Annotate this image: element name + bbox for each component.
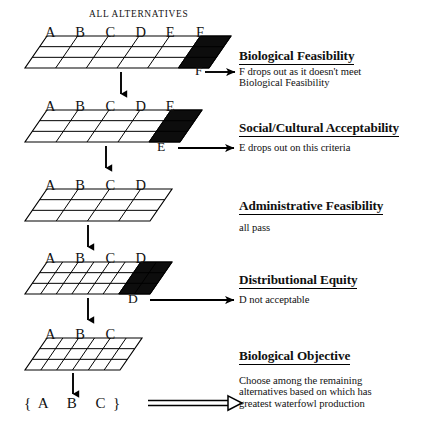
criterion-heading-biological-feasibility: Biological Feasibility xyxy=(239,48,354,65)
alternatives-grid-social-cultural-acceptability xyxy=(25,110,202,142)
alternative-label: A xyxy=(45,327,55,342)
criterion-note-distributional-equity: D not acceptable xyxy=(239,294,309,305)
alternatives-grid-biological-objective xyxy=(25,338,142,370)
criterion-note-biological-feasibility: F drops out as it doesn't meet Biologica… xyxy=(239,66,361,89)
alternative-label: D xyxy=(136,251,146,266)
criterion-note-social-cultural-acceptability: E drops out on this criteria xyxy=(239,142,350,153)
alternative-label: C xyxy=(105,25,115,40)
alternative-label: C xyxy=(105,99,115,114)
failing-alternative-cell xyxy=(149,110,202,142)
alternative-label: A xyxy=(45,25,55,40)
alternative-label: A xyxy=(45,99,55,114)
grid-column-line xyxy=(119,189,141,221)
alternative-label: B xyxy=(75,99,85,114)
alternative-label: D xyxy=(136,178,146,193)
figure-title: ALL ALTERNATIVES xyxy=(89,9,188,19)
alternative-label: A xyxy=(45,251,55,266)
grid-column-line xyxy=(56,189,78,221)
criterion-heading-biological-objective: Biological Objective xyxy=(239,348,350,365)
dropped-alternative-distributional-equity: D xyxy=(128,292,138,306)
alternative-label: C xyxy=(105,327,115,342)
alternatives-grid-distributional-equity xyxy=(25,262,172,294)
alternative-label: D xyxy=(136,25,146,40)
criterion-heading-social-cultural-acceptability: Social/Cultural Acceptability xyxy=(239,120,399,137)
alternative-label: A xyxy=(45,178,55,193)
alternatives-grid-administrative-feasibility xyxy=(25,189,172,221)
figure-canvas: ALL ALTERNATIVES ABCDEFBiological Feasib… xyxy=(0,0,421,432)
grid-column-line xyxy=(118,110,140,142)
alternative-label: B xyxy=(75,251,85,266)
alternative-label: E xyxy=(166,99,175,114)
grid-column-line xyxy=(88,189,110,221)
alternative-label: D xyxy=(136,99,146,114)
alternative-label: C xyxy=(105,251,115,266)
grid-column-line xyxy=(56,110,78,142)
alternative-label: B xyxy=(75,327,85,342)
grid-column-line xyxy=(86,36,108,68)
grid-column-line xyxy=(87,110,109,142)
alternative-label: B xyxy=(75,25,85,40)
criterion-heading-distributional-equity: Distributional Equity xyxy=(239,272,357,289)
alternative-label: E xyxy=(166,25,175,40)
grid-column-line xyxy=(148,36,170,68)
grid-column-line xyxy=(56,36,78,68)
alternative-label: B xyxy=(75,178,85,193)
criterion-note-biological-objective: Choose among the remaining alternatives … xyxy=(239,375,372,409)
final-alternative-set: { A B C } xyxy=(24,396,120,411)
alternative-label: F xyxy=(196,25,204,40)
criterion-note-administrative-feasibility: all pass xyxy=(239,222,270,233)
flowchart-diagram xyxy=(0,0,421,432)
dropped-alternative-biological-feasibility: F xyxy=(195,64,203,78)
dropped-alternative-social-cultural-acceptability: E xyxy=(157,140,165,154)
criterion-heading-administrative-feasibility: Administrative Feasibility xyxy=(239,198,383,215)
failing-alternative-cell xyxy=(178,36,231,68)
grid-column-line xyxy=(117,36,139,68)
alternative-label: C xyxy=(105,178,115,193)
